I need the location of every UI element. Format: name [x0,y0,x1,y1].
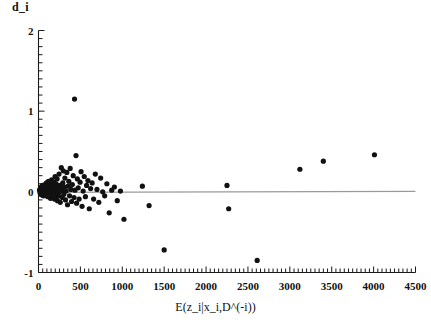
data-point [297,167,302,172]
data-point [104,181,109,186]
x-axis-tick-label: 1500 [153,280,176,292]
data-point [71,195,76,200]
data-point [140,184,145,189]
data-point [98,176,103,181]
data-point [70,182,75,187]
plot-group: 050010001500200025003000350040004500-101… [24,25,427,292]
data-point [65,202,70,207]
data-point [78,169,83,174]
data-point [255,258,260,263]
data-point [63,197,68,202]
data-point [72,96,77,101]
data-point [67,193,72,198]
data-point [77,180,82,185]
data-point [91,196,96,201]
data-point [71,173,76,178]
data-point [73,153,78,158]
data-point [68,166,73,171]
x-axis-tick-label: 2000 [195,280,218,292]
data-point [87,206,92,211]
x-axis-tick-label: 3500 [321,280,344,292]
data-point [146,203,151,208]
data-point [58,200,63,205]
data-point [90,180,95,185]
data-point [96,200,101,205]
data-point [226,206,231,211]
data-point [118,188,123,193]
data-point [102,193,107,198]
y-axis-tick-label: 2 [28,25,34,37]
data-point [224,183,229,188]
data-point [162,247,167,252]
data-point [115,198,120,203]
data-point [77,196,82,201]
data-point [81,188,86,193]
data-point [76,185,81,190]
data-point [321,159,326,164]
y-axis-tick-label: -1 [24,267,33,279]
x-axis-tick-label: 1000 [111,280,134,292]
x-axis-tick-label: 2500 [237,280,260,292]
plot-canvas: 050010001500200025003000350040004500-101… [0,0,431,331]
data-point [54,176,59,181]
data-point [372,152,377,157]
data-point [64,170,69,175]
data-point [88,186,93,191]
x-axis-tick-label: 0 [36,280,42,292]
data-point [56,171,61,176]
data-point [64,188,69,193]
x-axis-label: E(z_i|x_i,D^(-i)) [0,300,431,315]
data-point [82,174,87,179]
scatter-plot-figure: d_i 050010001500200025003000350040004500… [0,0,431,331]
x-axis-tick-label: 4000 [363,280,386,292]
x-axis-tick-label: 500 [72,280,89,292]
y-axis-tick-label: 0 [28,186,34,198]
y-axis-tick-label: 1 [28,105,34,117]
x-axis-tick-label: 4500 [405,280,428,292]
data-point [107,210,112,215]
data-point [94,187,99,192]
data-point [79,204,84,209]
data-point [83,194,88,199]
data-point [84,183,89,188]
data-point [93,171,98,176]
data-point [112,184,117,189]
x-axis-tick-label: 3000 [279,280,302,292]
zero-reference-line [39,191,416,192]
data-point [121,217,126,222]
